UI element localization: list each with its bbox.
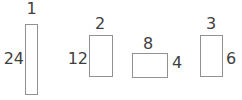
rect4-side-label: 6 — [226, 51, 240, 67]
rect4-top-label: 3 — [198, 15, 224, 33]
rect4-shape — [200, 35, 223, 77]
rectangle-figure-4: 3 6 — [0, 0, 242, 100]
rectangles-diagram: 1 24 2 12 8 4 3 6 — [0, 0, 242, 100]
